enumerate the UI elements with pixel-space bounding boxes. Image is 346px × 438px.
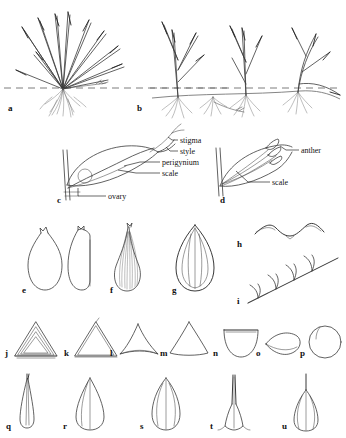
- leader-stigma: [168, 137, 178, 140]
- panel-letter-r: r: [63, 422, 67, 431]
- leader-ovary: [78, 188, 106, 196]
- panel-letter-b: b: [137, 104, 142, 113]
- panel-q-drawing: [20, 374, 34, 428]
- panel-e-drawing: [28, 226, 90, 290]
- panel-o-drawing: [266, 333, 300, 354]
- callout-anther: anther: [301, 147, 321, 155]
- panel-g-drawing: [176, 225, 214, 291]
- callout-scale: scale: [162, 170, 178, 178]
- panel-letter-l: l: [110, 349, 113, 358]
- panel-letter-q: q: [6, 422, 11, 431]
- callout-scale-d: scale: [272, 179, 288, 187]
- panel-s-drawing: [152, 378, 180, 430]
- ovary-outline: [78, 169, 92, 183]
- panel-r-drawing: [76, 378, 104, 430]
- illustration-canvas: [0, 0, 346, 438]
- panel-letter-i: i: [237, 297, 240, 306]
- panel-letter-s: s: [140, 422, 144, 431]
- panel-j-drawing: [15, 322, 57, 358]
- panel-u-drawing: [294, 374, 318, 431]
- leader-anther: [280, 146, 299, 150]
- panel-letter-h: h: [237, 240, 242, 249]
- callout-stigma: stigma: [180, 137, 201, 145]
- leader-scale-c: [118, 170, 160, 173]
- panel-letter-c: c: [57, 196, 61, 205]
- panel-m-drawing: [170, 322, 208, 355]
- panel-a-drawing: [4, 12, 232, 117]
- panel-i-drawing: [248, 255, 338, 303]
- panel-b-drawing: [150, 22, 342, 118]
- panel-letter-m: m: [160, 349, 168, 358]
- panel-l-drawing: [120, 324, 158, 354]
- callout-ovary: ovary: [108, 193, 126, 201]
- panel-d-drawing: [216, 139, 292, 196]
- perigynium-e1: [28, 233, 62, 290]
- panel-letter-d: d: [220, 196, 225, 205]
- panel-letter-o: o: [256, 349, 261, 358]
- margin-wavy-upper: [255, 223, 324, 236]
- panel-f-drawing: [114, 223, 140, 291]
- panel-p-drawing: [309, 326, 341, 358]
- leader-style: [166, 147, 178, 151]
- leader-scale-d: [236, 171, 270, 182]
- panel-letter-f: f: [110, 286, 113, 295]
- panel-t-drawing: [218, 375, 250, 430]
- perigynium-e2: [68, 229, 90, 290]
- panel-letter-u: u: [282, 422, 287, 431]
- panel-letter-k: k: [64, 349, 69, 358]
- callout-style: style: [180, 148, 195, 156]
- panel-letter-a: a: [8, 104, 13, 113]
- panel-letter-g: g: [172, 286, 177, 295]
- panel-n-drawing: [224, 330, 258, 357]
- callout-perigynium: perigynium: [162, 159, 199, 167]
- figure-plate: a b c d e f g h i j k l m n o p q r s t …: [0, 0, 346, 438]
- panel-h-drawing: [255, 223, 324, 239]
- panel-letter-j: j: [5, 349, 8, 358]
- panel-letter-n: n: [213, 349, 218, 358]
- panel-letter-t: t: [210, 422, 213, 431]
- panel-letter-p: p: [300, 349, 305, 358]
- panel-letter-e: e: [22, 286, 26, 295]
